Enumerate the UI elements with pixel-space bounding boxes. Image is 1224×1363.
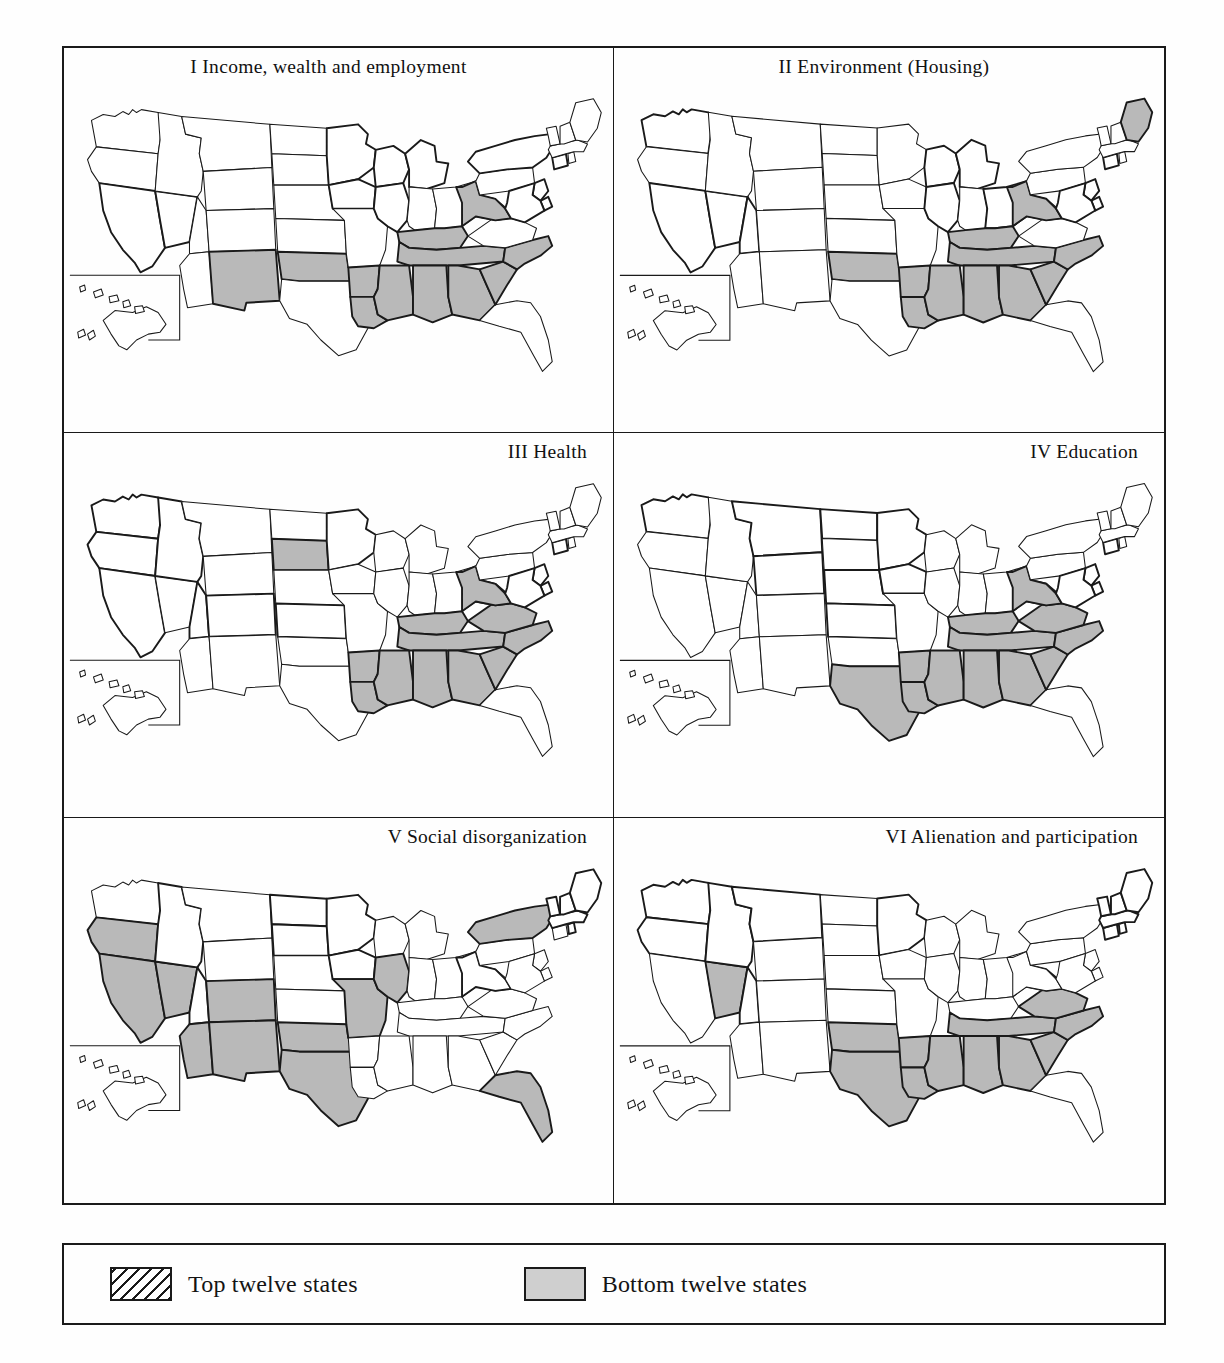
state-in bbox=[958, 572, 987, 615]
state-ms bbox=[374, 265, 413, 320]
state-ca bbox=[99, 183, 165, 272]
legend-label-bottom: Bottom twelve states bbox=[602, 1271, 807, 1298]
state-alaska bbox=[78, 1077, 166, 1120]
state-or bbox=[638, 532, 709, 576]
state-az bbox=[730, 252, 763, 308]
state-in bbox=[407, 187, 436, 230]
state-mi bbox=[405, 525, 448, 574]
state-ar bbox=[348, 265, 379, 296]
us-map-2 bbox=[614, 48, 1164, 432]
us-map-svg-V bbox=[64, 818, 613, 1203]
state-ar bbox=[348, 650, 379, 681]
state-al bbox=[413, 265, 452, 322]
state-mn bbox=[327, 124, 376, 185]
state-co bbox=[756, 979, 826, 1022]
map-panel-2: II Environment (Housing) bbox=[614, 48, 1164, 433]
panel-title-5: V Social disorganization bbox=[64, 826, 587, 848]
state-co bbox=[206, 209, 276, 252]
state-wy bbox=[203, 938, 274, 981]
state-sd bbox=[822, 924, 879, 955]
state-az bbox=[730, 1022, 763, 1078]
state-sd bbox=[272, 539, 329, 570]
state-az bbox=[180, 637, 213, 693]
state-co bbox=[756, 594, 826, 637]
state-ri bbox=[1119, 537, 1127, 549]
state-or bbox=[88, 917, 159, 961]
state-mi bbox=[405, 911, 448, 960]
state-az bbox=[180, 252, 213, 308]
state-ny bbox=[468, 519, 556, 558]
state-mn bbox=[327, 509, 376, 570]
state-nd bbox=[270, 895, 327, 926]
state-nd bbox=[820, 895, 877, 926]
state-alaska bbox=[628, 1077, 716, 1120]
state-ks bbox=[276, 989, 347, 1024]
state-ar bbox=[899, 651, 930, 682]
panel-title-4: IV Education bbox=[614, 441, 1138, 463]
state-co bbox=[206, 979, 276, 1022]
state-ms bbox=[924, 1036, 963, 1091]
state-wi bbox=[374, 146, 409, 187]
state-fl bbox=[1030, 301, 1103, 372]
state-wy bbox=[203, 167, 274, 210]
state-hawaii bbox=[80, 285, 145, 313]
state-ny bbox=[468, 905, 556, 944]
legend-item-top: Top twelve states bbox=[110, 1267, 358, 1301]
state-me bbox=[570, 99, 601, 142]
legend-label-top: Top twelve states bbox=[188, 1271, 358, 1298]
state-co bbox=[206, 594, 276, 637]
state-mn bbox=[877, 509, 926, 570]
state-in bbox=[407, 958, 436, 1001]
panel-title-2: II Environment (Housing) bbox=[614, 56, 1164, 78]
state-hawaii bbox=[80, 670, 145, 698]
state-ia bbox=[879, 179, 926, 208]
legend: Top twelve states Bottom twelve states bbox=[62, 1243, 1166, 1325]
state-ar bbox=[348, 1036, 379, 1067]
state-ia bbox=[879, 564, 926, 593]
state-in bbox=[958, 957, 987, 1000]
state-mi bbox=[956, 910, 999, 959]
state-in bbox=[407, 572, 436, 615]
map-panel-6: VI Alienation and participation bbox=[614, 818, 1164, 1203]
state-wy bbox=[753, 552, 824, 595]
state-ri bbox=[568, 537, 576, 549]
state-al bbox=[964, 651, 1003, 708]
state-ks bbox=[276, 218, 347, 253]
map-panel-4: IV Education bbox=[614, 433, 1164, 818]
state-ri bbox=[1119, 152, 1127, 164]
map-panel-3: III Health bbox=[64, 433, 614, 818]
state-ca bbox=[649, 954, 715, 1043]
us-map-svg-IV bbox=[614, 433, 1164, 817]
state-fl bbox=[480, 1071, 553, 1142]
state-mi bbox=[956, 140, 999, 189]
state-nm bbox=[209, 1020, 280, 1081]
state-ms bbox=[374, 650, 413, 705]
state-hawaii bbox=[630, 670, 695, 698]
state-alaska bbox=[628, 692, 716, 735]
state-ks bbox=[276, 603, 347, 638]
us-map-6 bbox=[614, 818, 1164, 1203]
hatched-swatch-icon bbox=[110, 1267, 172, 1301]
gray-swatch-icon bbox=[524, 1267, 586, 1301]
us-map-1 bbox=[64, 48, 613, 432]
state-alaska bbox=[628, 307, 716, 350]
state-ca bbox=[649, 568, 715, 657]
panel-title-6: VI Alienation and participation bbox=[614, 826, 1138, 848]
state-ks bbox=[826, 989, 897, 1024]
us-map-svg-II bbox=[614, 48, 1164, 432]
state-ny bbox=[1019, 134, 1107, 173]
state-ky bbox=[397, 997, 468, 1021]
state-me bbox=[1121, 484, 1152, 527]
state-hawaii bbox=[80, 1056, 145, 1084]
state-wy bbox=[753, 167, 824, 210]
state-ny bbox=[1019, 904, 1107, 943]
state-sd bbox=[822, 154, 879, 185]
state-mi bbox=[405, 140, 448, 189]
state-co bbox=[756, 209, 826, 252]
us-map-5 bbox=[64, 818, 613, 1203]
state-fl bbox=[1030, 686, 1103, 757]
state-nd bbox=[270, 509, 327, 540]
state-me bbox=[570, 869, 601, 912]
six-panel-map-figure: I Income, wealth and employment II Envir… bbox=[62, 46, 1166, 1205]
legend-item-bottom: Bottom twelve states bbox=[524, 1267, 807, 1301]
